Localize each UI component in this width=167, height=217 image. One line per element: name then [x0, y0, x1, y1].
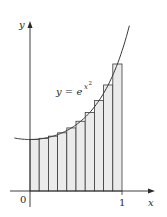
y-axis-label: y — [18, 19, 25, 30]
riemann-sum-chart: 0 1 x y y = e x 2 — [0, 0, 167, 217]
rectangle-9 — [104, 85, 113, 191]
rectangles-group — [30, 64, 122, 191]
rectangle-3 — [48, 136, 57, 191]
rectangle-1 — [30, 139, 39, 191]
rectangle-10 — [113, 64, 122, 191]
curve-label-exponent: x — [84, 83, 88, 91]
curve-label-base: y = e — [55, 86, 82, 97]
x-tick-label-1: 1 — [119, 197, 125, 208]
y-axis-arrow-icon — [28, 21, 33, 28]
chart-canvas: 0 1 x y y = e x 2 — [0, 0, 167, 217]
curve-label: y = e x 2 — [55, 80, 92, 97]
rectangle-7 — [85, 112, 94, 191]
rectangle-8 — [94, 101, 103, 191]
rectangle-2 — [39, 138, 48, 191]
curve-label-exponent-power: 2 — [89, 80, 93, 86]
rectangle-6 — [76, 121, 85, 191]
rectangle-5 — [67, 128, 76, 191]
x-axis-label: x — [148, 197, 154, 208]
x-tick-label-0: 0 — [20, 194, 26, 205]
rectangle-4 — [58, 133, 67, 191]
x-axis-arrow-icon — [148, 189, 155, 194]
